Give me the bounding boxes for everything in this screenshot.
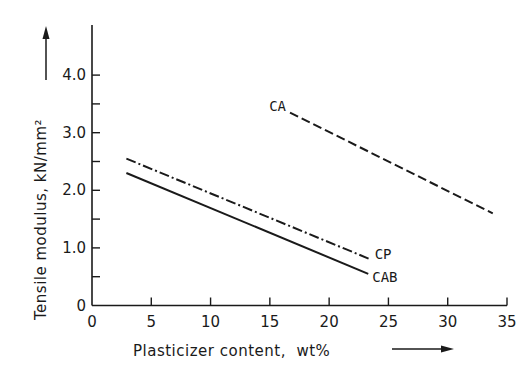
x-tick-label: 5 — [147, 313, 157, 331]
axes — [92, 25, 507, 306]
x-tick-label: 25 — [379, 313, 398, 331]
x-tick-label: 20 — [320, 313, 339, 331]
y-tick-label: 2.0 — [62, 181, 86, 199]
series-lines — [126, 113, 492, 274]
series-line-cab — [126, 173, 368, 274]
x-ticks: 05101520253035 — [87, 298, 516, 332]
x-axis-label: Plasticizer content, wt% — [133, 342, 330, 360]
x-tick-label: 10 — [201, 313, 220, 331]
y-axis-title: Tensile modulus, kN/mm² — [32, 119, 50, 321]
y-tick-label: 1.0 — [62, 239, 86, 257]
series-label-cab: CAB — [372, 269, 397, 285]
series-labels: CACPCAB — [269, 98, 397, 285]
y-axis-label: Tensile modulus, kN/mm² — [32, 119, 50, 321]
x-tick-label: 30 — [438, 313, 457, 331]
series-line-cp — [126, 159, 370, 260]
y-ticks: 01.02.03.04.0 — [62, 66, 100, 314]
y-arrow-head-icon — [43, 26, 50, 39]
y-tick-label: 3.0 — [62, 124, 86, 142]
chart: 05101520253035 01.02.03.04.0 CACPCAB Ten… — [0, 0, 530, 378]
y-tick-label: 0 — [76, 297, 86, 315]
series-line-ca — [290, 113, 493, 214]
series-label-ca: CA — [269, 98, 286, 114]
x-tick-label: 0 — [87, 313, 97, 331]
x-tick-label: 15 — [260, 313, 279, 331]
x-tick-label: 35 — [497, 313, 516, 331]
y-tick-label: 4.0 — [62, 66, 86, 84]
series-label-cp: CP — [375, 246, 392, 262]
x-arrow-head-icon — [441, 346, 454, 353]
